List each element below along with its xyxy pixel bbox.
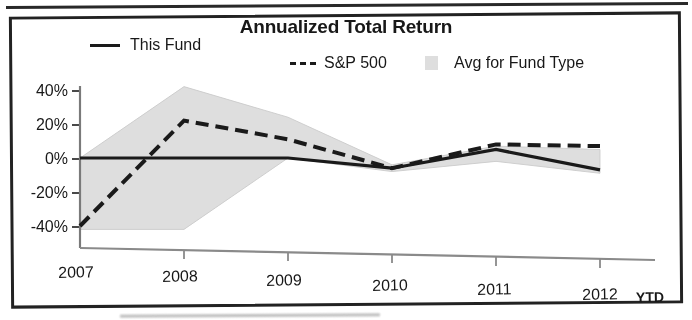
x-axis-spine: [80, 248, 655, 260]
scan-bottom-artifact: [0, 311, 692, 320]
chart-figure: Annualized Total Return This Fund S&P 50…: [0, 0, 692, 320]
plot-canvas: [0, 0, 692, 320]
